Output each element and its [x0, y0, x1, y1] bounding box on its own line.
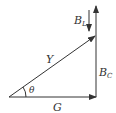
vector-diagram: Y G θ BL BC: [0, 0, 116, 113]
label-b-c-sub: C: [107, 72, 113, 80]
label-b-l-sub: L: [81, 20, 87, 28]
diagram-svg: Y G θ BL BC: [0, 0, 116, 113]
label-b-l: BL: [73, 14, 87, 28]
theta-angle-arc: [23, 87, 26, 97]
label-theta: θ: [29, 85, 35, 95]
label-y: Y: [46, 53, 55, 66]
label-b-l-main: B: [73, 14, 82, 27]
y-vector-arrow: [9, 36, 95, 97]
label-b-c: BC: [98, 66, 113, 80]
label-g: G: [53, 101, 62, 113]
label-b-c-main: B: [98, 66, 107, 79]
